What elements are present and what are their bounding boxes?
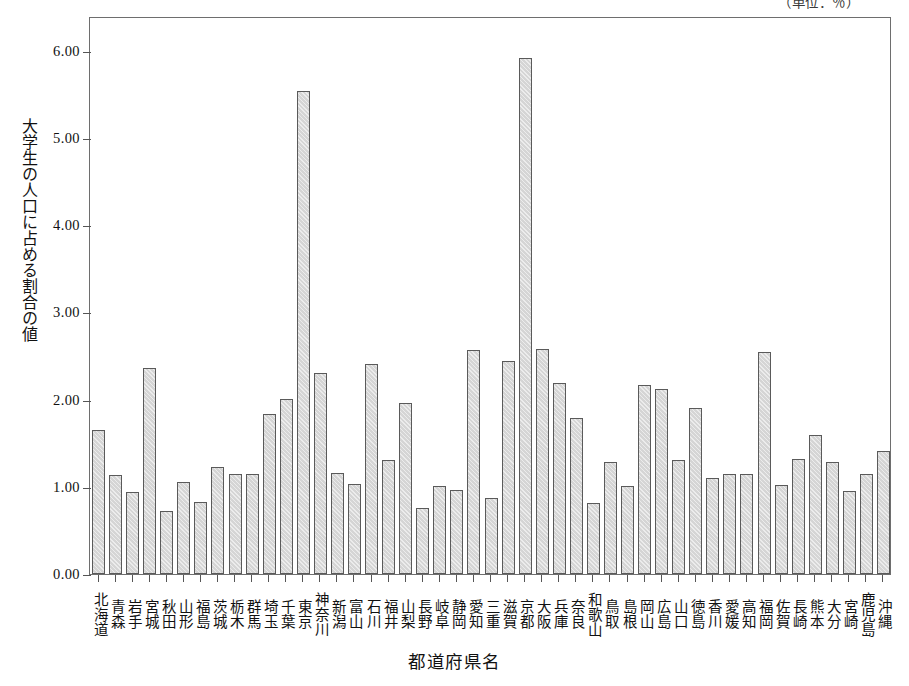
x-tick-mark <box>388 575 389 582</box>
bar[interactable] <box>485 498 498 574</box>
bar[interactable] <box>689 408 702 574</box>
x-tick-label: 山梨 <box>396 585 413 643</box>
bar[interactable] <box>194 502 207 574</box>
x-tick-label: 石川 <box>362 585 379 643</box>
bar-slot <box>485 16 498 574</box>
unit-annotation: （単位：％） <box>778 0 859 11</box>
bar-slot <box>399 16 412 574</box>
x-tick-label: 兵庫 <box>550 585 567 643</box>
bar[interactable] <box>587 503 600 574</box>
bar[interactable] <box>382 460 395 574</box>
bar[interactable] <box>229 474 242 574</box>
x-tick-label: 愛媛 <box>720 585 737 643</box>
bar[interactable] <box>331 473 344 574</box>
bar[interactable] <box>536 349 549 574</box>
x-tick-mark <box>183 575 184 582</box>
x-tick-label: 北海道 <box>89 585 106 643</box>
bar[interactable] <box>519 58 532 574</box>
bar-slot <box>229 16 242 574</box>
x-tick-mark <box>524 575 525 582</box>
bar[interactable] <box>740 474 753 574</box>
x-tick-label: 栃木 <box>226 585 243 643</box>
x-axis-title: 都道府県名 <box>0 648 909 673</box>
bar[interactable] <box>655 389 668 574</box>
x-tick-mark <box>644 575 645 582</box>
bar-slot <box>211 16 224 574</box>
bar[interactable] <box>672 460 685 574</box>
x-tick-mark <box>763 575 764 582</box>
bar-slot <box>570 16 583 574</box>
bar[interactable] <box>314 373 327 574</box>
x-tick-mark <box>507 575 508 582</box>
bar[interactable] <box>109 475 122 574</box>
bar-slot <box>382 16 395 574</box>
bar[interactable] <box>160 511 173 574</box>
x-tick-label: 新潟 <box>328 585 345 643</box>
x-tick-mark <box>558 575 559 582</box>
bar[interactable] <box>177 482 190 574</box>
y-tick-label: 4.00 <box>53 217 80 234</box>
x-tick-mark <box>695 575 696 582</box>
bar-slot <box>758 16 771 574</box>
bar[interactable] <box>263 414 276 574</box>
bar[interactable] <box>570 418 583 574</box>
bar[interactable] <box>450 490 463 574</box>
bar-slot <box>723 16 736 574</box>
x-tick-mark <box>848 575 849 582</box>
x-tick-mark <box>746 575 747 582</box>
x-tick-mark <box>575 575 576 582</box>
x-tick-mark <box>882 575 883 582</box>
bar[interactable] <box>433 486 446 574</box>
bar[interactable] <box>297 91 310 574</box>
bar[interactable] <box>826 462 839 574</box>
bar-slot <box>809 16 822 574</box>
bar[interactable] <box>553 383 566 574</box>
bar[interactable] <box>348 484 361 574</box>
bar[interactable] <box>809 435 822 575</box>
bar[interactable] <box>416 508 429 574</box>
bar[interactable] <box>399 403 412 574</box>
x-tick-mark <box>115 575 116 582</box>
bar[interactable] <box>467 350 480 574</box>
bar[interactable] <box>621 486 634 574</box>
bar[interactable] <box>723 474 736 574</box>
bar[interactable] <box>92 430 105 574</box>
bar[interactable] <box>706 478 719 574</box>
x-tick-label: 群馬 <box>243 585 260 643</box>
x-tick-mark <box>780 575 781 582</box>
bar[interactable] <box>365 364 378 574</box>
x-tick-label: 京都 <box>516 585 533 643</box>
bar-slot <box>604 16 617 574</box>
bar[interactable] <box>775 485 788 574</box>
bar[interactable] <box>143 368 156 574</box>
bar[interactable] <box>502 361 515 574</box>
x-tick-label: 岐阜 <box>430 585 447 643</box>
x-axis-category-labels: 北海道青森岩手宮城秋田山形福島茨城栃木群馬埼玉千葉東京神奈川新潟富山石川福井山梨… <box>89 585 891 643</box>
bar[interactable] <box>792 459 805 574</box>
bar[interactable] <box>604 462 617 574</box>
bar[interactable] <box>638 385 651 574</box>
x-tick-mark <box>678 575 679 582</box>
bar-slot <box>740 16 753 574</box>
x-tick-mark <box>405 575 406 582</box>
x-tick-label: 熊本 <box>806 585 823 643</box>
y-tick-label: 6.00 <box>53 43 80 60</box>
bar-slot <box>433 16 446 574</box>
x-tick-label: 大分 <box>823 585 840 643</box>
x-tick-label: 神奈川 <box>311 585 328 643</box>
x-tick-mark <box>166 575 167 582</box>
bar-slot <box>263 16 276 574</box>
bar[interactable] <box>211 467 224 574</box>
bar-slot <box>280 16 293 574</box>
x-tick-label: 鹿児島 <box>857 585 874 643</box>
x-tick-label: 静岡 <box>447 585 464 643</box>
x-tick-label: 香川 <box>703 585 720 643</box>
bar[interactable] <box>246 474 259 574</box>
bar[interactable] <box>280 399 293 574</box>
bar[interactable] <box>758 352 771 574</box>
bar[interactable] <box>843 491 856 574</box>
bar[interactable] <box>126 492 139 574</box>
bar[interactable] <box>877 451 890 574</box>
bar[interactable] <box>860 474 873 574</box>
x-tick-mark <box>541 575 542 582</box>
